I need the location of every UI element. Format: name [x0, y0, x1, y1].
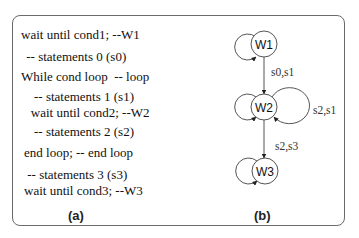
node-w3: W3	[252, 158, 278, 184]
edge-label-w2-w3: s2,s3	[275, 140, 299, 153]
node-label: W1	[255, 38, 273, 52]
edge-label-w2-w2: s2,s1	[313, 104, 337, 117]
node-w2: W2	[251, 94, 277, 120]
node-label: W2	[255, 101, 273, 115]
node-label: W3	[256, 165, 274, 179]
self-loop-w2-right	[272, 88, 310, 124]
edge-label-w1-w2: s0,s1	[271, 66, 295, 79]
caption-b: (b)	[254, 208, 271, 223]
node-w1: W1	[251, 31, 277, 57]
state-graph: W1 s0,s1 s2,s1 W2 s2,s3 W3	[0, 0, 359, 238]
